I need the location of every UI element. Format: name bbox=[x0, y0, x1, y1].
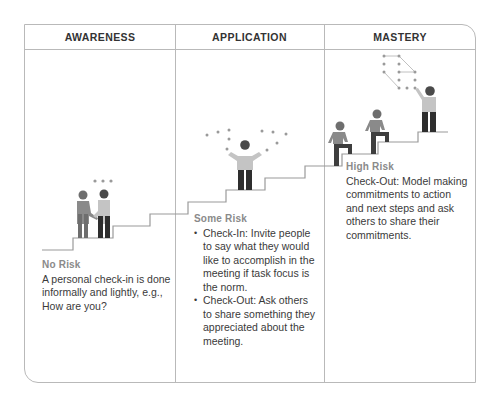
risk-label-some-risk: Some Risk bbox=[194, 212, 318, 226]
mastery-text: Check-Out: Model making commitments to a… bbox=[346, 175, 468, 243]
application-bullet-list: Check-In: Invite people to say what they… bbox=[194, 227, 318, 349]
two-people-shaking-hands-icon bbox=[77, 179, 113, 238]
risk-label-high-risk: High Risk bbox=[346, 160, 468, 174]
awareness-text: A personal check-in is done informally a… bbox=[42, 273, 172, 314]
risk-label-no-risk: No Risk bbox=[42, 258, 172, 272]
bullet-check-in: Check-In: Invite people to say what they… bbox=[194, 227, 318, 295]
people-climbing-stairs-icon bbox=[328, 55, 436, 167]
person-juggling-ideas-icon bbox=[206, 129, 288, 191]
application-description: Some Risk Check-In: Invite people to say… bbox=[194, 212, 318, 348]
awareness-description: No Risk A personal check-in is done info… bbox=[42, 258, 172, 313]
mastery-description: High Risk Check-Out: Model making commit… bbox=[346, 160, 468, 242]
bullet-check-out: Check-Out: Ask others to share something… bbox=[194, 294, 318, 348]
